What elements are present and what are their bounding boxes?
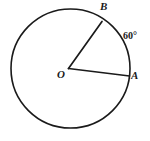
figure-canvas xyxy=(0,0,150,141)
point-label-a: A xyxy=(131,70,139,81)
center-label-o: O xyxy=(57,69,65,80)
radius-segment-oa xyxy=(69,69,130,77)
angle-measure-label: 60° xyxy=(123,31,137,41)
point-label-b: B xyxy=(100,1,108,12)
circle-geometry-figure: B A O 60° xyxy=(0,0,150,141)
radius-segment-ob xyxy=(69,22,103,69)
